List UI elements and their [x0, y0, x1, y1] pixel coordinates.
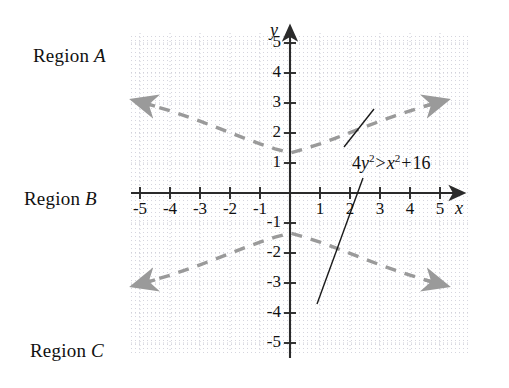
y-tick-label-4: 4: [259, 62, 281, 82]
x-tick-label-4: 4: [400, 199, 420, 219]
x-tick-label--4: -4: [160, 199, 180, 219]
y-axis-label: y: [270, 20, 278, 41]
region-c-prefix: Region: [30, 340, 91, 361]
x-axis-label: x: [455, 198, 463, 219]
y-tick-label--1: -1: [251, 212, 281, 232]
inequality-lhs-var: y: [361, 153, 369, 173]
inequality-lhs-exp: 2: [369, 152, 375, 164]
inequality-constant: 16: [412, 153, 430, 173]
graph-svg: [131, 24, 468, 362]
inequality-operator: >: [375, 153, 387, 173]
hyperbola-inequality-figure: Region A Region B Region C: [0, 0, 509, 388]
x-tick-label--3: -3: [190, 199, 210, 219]
x-tick-label-3: 3: [370, 199, 390, 219]
inequality-annotation: 4y2>x2+16: [352, 152, 430, 174]
y-tick-label-1: 1: [259, 152, 281, 172]
x-tick-label--2: -2: [220, 199, 240, 219]
inequality-rhs-var: x: [387, 153, 395, 173]
y-tick-label--2: -2: [251, 242, 281, 262]
region-c-letter: C: [91, 340, 104, 361]
y-tick-label-3: 3: [259, 92, 281, 112]
y-tick-label--4: -4: [251, 302, 281, 322]
region-label-a: Region A: [33, 45, 106, 67]
region-label-c: Region C: [30, 340, 104, 362]
x-tick-label-1: 1: [310, 199, 330, 219]
region-a-prefix: Region: [33, 45, 94, 66]
x-tick-label-2: 2: [340, 199, 360, 219]
x-tick-label-5: 5: [430, 199, 450, 219]
region-b-letter: B: [85, 188, 97, 209]
region-b-prefix: Region: [24, 188, 85, 209]
region-a-letter: A: [94, 45, 106, 66]
y-tick-label-2: 2: [259, 122, 281, 142]
y-tick-label--5: -5: [251, 332, 281, 352]
x-tick-label--5: -5: [130, 199, 150, 219]
y-tick-label--3: -3: [251, 272, 281, 292]
inequality-plus: +: [400, 153, 412, 173]
region-label-b: Region B: [24, 188, 97, 210]
plot-area: -5 -4 -3 -2 -1 1 2 3 4 5 5 4 3 2 1 -1 -2…: [131, 24, 468, 362]
inequality-lhs-coef: 4: [352, 153, 361, 173]
